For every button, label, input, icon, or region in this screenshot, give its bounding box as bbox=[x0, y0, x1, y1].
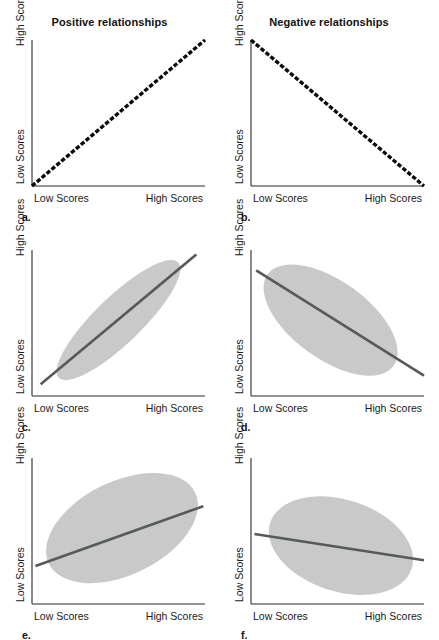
column-title-negative: Negative relationships bbox=[219, 16, 439, 28]
y-axis-label-low: Low Scores bbox=[233, 547, 245, 602]
x-axis-label-low: Low Scores bbox=[34, 610, 89, 622]
x-axis-label-high: High Scores bbox=[146, 192, 203, 204]
x-axis-label-high: High Scores bbox=[365, 402, 422, 414]
trend-line-c bbox=[41, 254, 197, 384]
x-axis-label-low: Low Scores bbox=[253, 610, 308, 622]
y-axis-label-high: High Scores bbox=[233, 199, 245, 256]
y-axis-label-high: High Scores bbox=[14, 0, 26, 46]
plot-c: Low ScoresHigh ScoresHigh ScoresLow Scor… bbox=[0, 244, 219, 440]
y-axis-label-high: High Scores bbox=[14, 199, 26, 256]
x-axis-label-high: High Scores bbox=[365, 610, 422, 622]
panel-e: Low ScoresHigh ScoresHigh ScoresLow Scor… bbox=[0, 452, 219, 640]
panel-b: Low ScoresHigh ScoresHigh ScoresLow Scor… bbox=[219, 34, 439, 224]
scatter-cloud-e bbox=[28, 450, 215, 605]
x-axis-label-low: Low Scores bbox=[253, 192, 308, 204]
y-axis-label-high: High Scores bbox=[14, 407, 26, 464]
panel-letter-e: e. bbox=[22, 629, 31, 640]
y-axis-label-low: Low Scores bbox=[233, 129, 245, 184]
x-axis-label-high: High Scores bbox=[146, 402, 203, 414]
plot-e: Low ScoresHigh ScoresHigh ScoresLow Scor… bbox=[0, 452, 219, 640]
y-axis-label-low: Low Scores bbox=[14, 129, 26, 184]
y-axis-label-low: Low Scores bbox=[14, 339, 26, 394]
y-axis-label-low: Low Scores bbox=[14, 547, 26, 602]
plot-b: Low ScoresHigh ScoresHigh ScoresLow Scor… bbox=[219, 34, 439, 224]
panel-d: Low ScoresHigh ScoresHigh ScoresLow Scor… bbox=[219, 244, 439, 440]
trend-line-b bbox=[251, 40, 424, 186]
x-axis-label-low: Low Scores bbox=[253, 402, 308, 414]
correlation-figure: Positive relationships Negative relation… bbox=[0, 0, 439, 640]
y-axis-label-high: High Scores bbox=[233, 407, 245, 464]
panel-c: Low ScoresHigh ScoresHigh ScoresLow Scor… bbox=[0, 244, 219, 440]
x-axis-label-high: High Scores bbox=[146, 610, 203, 622]
trend-line-a bbox=[32, 40, 205, 186]
plot-a: Low ScoresHigh ScoresHigh ScoresLow Scor… bbox=[0, 34, 219, 224]
column-title-positive: Positive relationships bbox=[0, 16, 219, 28]
panel-a: Low ScoresHigh ScoresHigh ScoresLow Scor… bbox=[0, 34, 219, 224]
y-axis-label-low: Low Scores bbox=[233, 339, 245, 394]
x-axis-label-low: Low Scores bbox=[34, 192, 89, 204]
plot-d: Low ScoresHigh ScoresHigh ScoresLow Scor… bbox=[219, 244, 439, 440]
scatter-cloud-f bbox=[256, 479, 426, 612]
scatter-cloud-d bbox=[245, 243, 417, 398]
y-axis-label-high: High Scores bbox=[233, 0, 245, 46]
panel-f: Low ScoresHigh ScoresHigh ScoresLow Scor… bbox=[219, 452, 439, 640]
plot-f: Low ScoresHigh ScoresHigh ScoresLow Scor… bbox=[219, 452, 439, 640]
panel-letter-f: f. bbox=[241, 629, 247, 640]
x-axis-label-high: High Scores bbox=[365, 192, 422, 204]
x-axis-label-low: Low Scores bbox=[34, 402, 89, 414]
